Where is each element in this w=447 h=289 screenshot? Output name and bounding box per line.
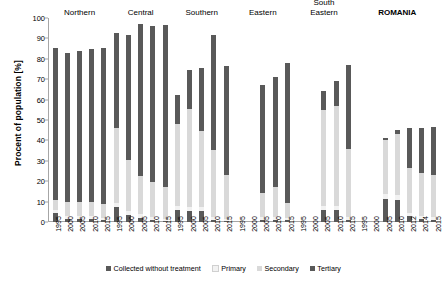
- stacked-bar[interactable]: [395, 130, 400, 222]
- x-label-slot: 2000: [184, 223, 196, 257]
- bar-slot: [416, 18, 428, 222]
- stacked-bar[interactable]: [383, 138, 388, 222]
- stacked-bar[interactable]: [407, 128, 412, 222]
- stacked-bar[interactable]: [431, 127, 436, 222]
- stacked-bar[interactable]: [187, 70, 192, 222]
- x-label-slot: 2015: [343, 223, 355, 257]
- x-label-slot: 2000: [245, 223, 257, 257]
- bar-group: Central: [110, 18, 171, 222]
- stacked-bar[interactable]: [285, 63, 290, 222]
- stacked-bar[interactable]: [175, 95, 180, 222]
- x-label-group: 19952000200520102015: [49, 223, 110, 257]
- y-tick-label: 10: [37, 197, 45, 206]
- bar-segment: [175, 95, 180, 125]
- stacked-bar[interactable]: [260, 85, 265, 222]
- stacked-bar[interactable]: [65, 53, 70, 222]
- y-tick-mark: [45, 58, 48, 59]
- stacked-bar[interactable]: [53, 48, 58, 222]
- y-tick-label: 90: [37, 34, 45, 43]
- bar-segment: [150, 26, 155, 182]
- bar-segment: [260, 193, 265, 216]
- bar-segment: [65, 53, 70, 202]
- bar-slot: [354, 18, 366, 222]
- stacked-bar[interactable]: [346, 65, 351, 222]
- bar-segment: [419, 173, 424, 216]
- bar-segment: [89, 202, 94, 216]
- bar-segment: [150, 182, 155, 217]
- legend-item[interactable]: Collected without treatment: [106, 264, 201, 273]
- group-title: South Eastern: [293, 0, 354, 17]
- stacked-bar[interactable]: [126, 35, 131, 222]
- x-label-slot: 2005: [319, 223, 331, 257]
- x-label-slot: 2012: [404, 223, 416, 257]
- plot-area: 0102030405060708090100 NorthernCentralSo…: [48, 18, 440, 222]
- y-tick-label: 40: [37, 136, 45, 145]
- bar-segment: [65, 202, 70, 216]
- bar-segment: [321, 110, 326, 206]
- bar-slot: [269, 18, 281, 222]
- x-label-slot: 2000: [368, 223, 380, 257]
- bar-groups: NorthernCentralSouthernEasternSouth East…: [49, 18, 440, 222]
- legend-item[interactable]: Tertiary: [310, 264, 341, 273]
- stacked-bar[interactable]: [273, 77, 278, 222]
- stacked-bar[interactable]: [321, 91, 326, 222]
- stacked-bar[interactable]: [89, 49, 94, 222]
- stacked-bar[interactable]: [114, 33, 119, 222]
- group-bars: [293, 18, 354, 222]
- y-tick-mark: [45, 99, 48, 100]
- bar-segment: [273, 77, 278, 187]
- x-label-slot: 2010: [392, 223, 404, 257]
- bar-slot: [147, 18, 159, 222]
- group-title: Northern: [49, 8, 110, 18]
- stacked-bar[interactable]: [211, 35, 216, 222]
- x-label-group: 1995200020052010201220142015: [355, 223, 441, 257]
- y-tick-mark: [45, 38, 48, 39]
- bar-group: Eastern: [232, 18, 293, 222]
- x-label-slot: 2005: [135, 223, 147, 257]
- group-title: ROMANIA: [354, 8, 440, 18]
- stacked-bar[interactable]: [163, 25, 168, 222]
- group-bars: [171, 18, 232, 222]
- bar-slot: [122, 18, 134, 222]
- bar-slot: [208, 18, 220, 222]
- x-label-slot: 2000: [123, 223, 135, 257]
- x-label-slot: 2000: [61, 223, 73, 257]
- bar-slot: [73, 18, 85, 222]
- group-title: Eastern: [232, 8, 293, 18]
- bar-group: ROMANIA: [354, 18, 440, 222]
- y-tick-label: 50: [37, 116, 45, 125]
- x-label-group: 19952000200520102015: [172, 223, 233, 257]
- bar-slot: [49, 18, 61, 222]
- stacked-bar[interactable]: [199, 68, 204, 222]
- stacked-bar[interactable]: [334, 81, 339, 222]
- stacked-bar[interactable]: [77, 51, 82, 222]
- x-label-slot: 1995: [355, 223, 367, 257]
- stacked-bar[interactable]: [138, 24, 143, 222]
- stacked-bar[interactable]: [224, 66, 229, 222]
- bar-slot: [391, 18, 403, 222]
- legend-item[interactable]: Secondary: [257, 264, 299, 273]
- bar-slot: [293, 18, 305, 222]
- bar-chart: Procent of population [%] 01020304050607…: [0, 0, 447, 289]
- bar-slot: [110, 18, 122, 222]
- bar-segment: [346, 149, 351, 217]
- bar-slot: [196, 18, 208, 222]
- stacked-bar[interactable]: [419, 128, 424, 222]
- bar-group: Northern: [49, 18, 110, 222]
- bar-slot: [61, 18, 73, 222]
- legend-item[interactable]: Primary: [212, 264, 246, 273]
- y-tick-label: 20: [37, 177, 45, 186]
- legend-swatch-icon: [257, 266, 262, 271]
- bar-segment: [126, 160, 131, 211]
- y-tick-label: 30: [37, 156, 45, 165]
- x-label-group: 19952000200520102015: [110, 223, 171, 257]
- bar-slot: [379, 18, 391, 222]
- y-tick-label: 100: [32, 14, 45, 23]
- bar-segment: [321, 91, 326, 109]
- bar-slot: [86, 18, 98, 222]
- stacked-bar[interactable]: [101, 48, 106, 222]
- stacked-bar[interactable]: [150, 26, 155, 222]
- legend-label: Collected without treatment: [114, 264, 201, 273]
- bar-slot: [281, 18, 293, 222]
- bar-segment: [138, 24, 143, 176]
